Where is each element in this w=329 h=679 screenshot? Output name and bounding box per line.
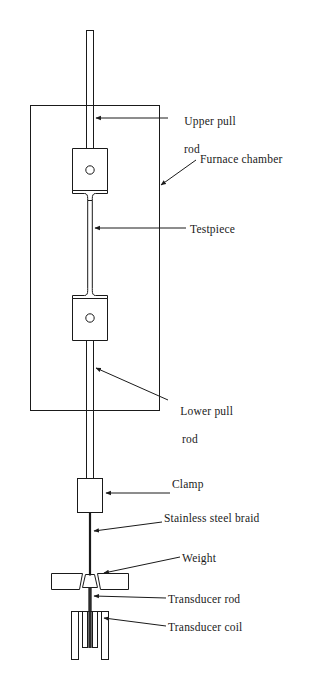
label-upper-pull-rod-line1: Upper pull xyxy=(184,115,236,127)
label-upper-pull-rod: Upper pull rod xyxy=(172,100,236,184)
label-weight: Weight xyxy=(182,551,216,565)
upper-grip-block xyxy=(73,149,108,201)
lower-pull-rod xyxy=(87,341,94,479)
leader-weight xyxy=(104,557,180,573)
upper-pull-rod xyxy=(87,31,94,149)
label-lower-pull-rod: Lower pull rod xyxy=(168,390,233,474)
label-stainless-steel-braid: Stainless steel braid xyxy=(164,511,260,525)
label-lower-pull-rod-line1: Lower pull xyxy=(180,405,233,417)
creep-rig-figure: Upper pull rod Furnace chamber Testpiece… xyxy=(0,0,329,679)
label-transducer-rod: Transducer rod xyxy=(168,592,240,606)
leader-lower-pull-rod xyxy=(96,368,168,400)
lower-grip-block xyxy=(73,289,108,341)
label-testpiece: Testpiece xyxy=(190,222,235,236)
label-lower-pull-rod-line2: rod xyxy=(168,432,233,446)
weight xyxy=(52,574,129,590)
label-transducer-coil: Transducer coil xyxy=(168,620,242,634)
leader-transducer-rod xyxy=(94,596,166,598)
label-furnace-chamber: Furnace chamber xyxy=(200,152,283,166)
testpiece xyxy=(88,201,93,289)
label-clamp: Clamp xyxy=(172,477,204,491)
furnace-chamber xyxy=(31,106,160,411)
diagram-canvas xyxy=(0,0,329,679)
leader-transducer-coil xyxy=(104,618,166,626)
clamp xyxy=(78,479,103,513)
leader-stainless-steel-braid xyxy=(94,522,162,531)
